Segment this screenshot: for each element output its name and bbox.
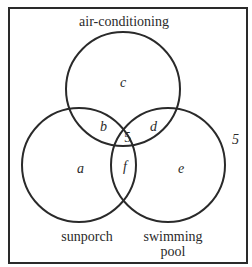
- set-label-swimming-pool-line1: swimming: [138, 229, 208, 244]
- set-label-swimming-pool-line2: pool: [138, 244, 208, 259]
- region-center: 5: [124, 131, 131, 145]
- region-f: f: [123, 160, 127, 174]
- region-c: c: [120, 76, 126, 90]
- region-d: d: [150, 120, 157, 134]
- region-outside: 5: [232, 133, 239, 147]
- set-label-sunporch: sunporch: [56, 229, 118, 244]
- region-a: a: [77, 162, 84, 176]
- region-e: e: [178, 162, 184, 176]
- set-label-air-conditioning: air-conditioning: [62, 14, 186, 29]
- set-label-swimming-pool: swimming pool: [138, 229, 208, 259]
- region-b: b: [100, 120, 107, 134]
